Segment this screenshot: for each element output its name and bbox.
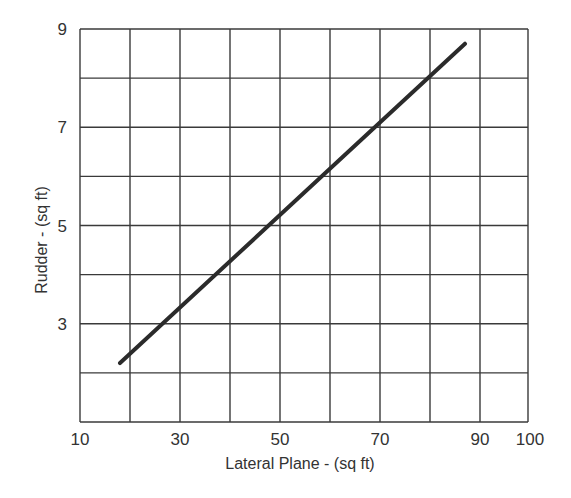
x-tick-label: 50 (271, 430, 290, 449)
x-tick-label: 10 (71, 430, 90, 449)
x-axis-title: Lateral Plane - (sq ft) (225, 455, 374, 472)
y-axis-ticks: 3579 (58, 20, 67, 334)
y-tick-label: 3 (58, 315, 67, 334)
y-tick-label: 5 (58, 217, 67, 236)
x-tick-label: 90 (471, 430, 490, 449)
data-series (120, 44, 465, 363)
y-axis-title: Rudder - (sq ft) (33, 186, 50, 294)
chart-svg: 3579 1030507090100 Lateral Plane - (sq f… (0, 0, 571, 498)
data-line (120, 44, 465, 363)
x-tick-label: 30 (171, 430, 190, 449)
y-tick-label: 7 (58, 118, 67, 137)
x-axis-ticks: 1030507090100 (71, 430, 545, 449)
x-tick-label: 100 (516, 430, 544, 449)
y-tick-label: 9 (58, 20, 67, 39)
grid (80, 29, 528, 422)
x-tick-label: 70 (371, 430, 390, 449)
